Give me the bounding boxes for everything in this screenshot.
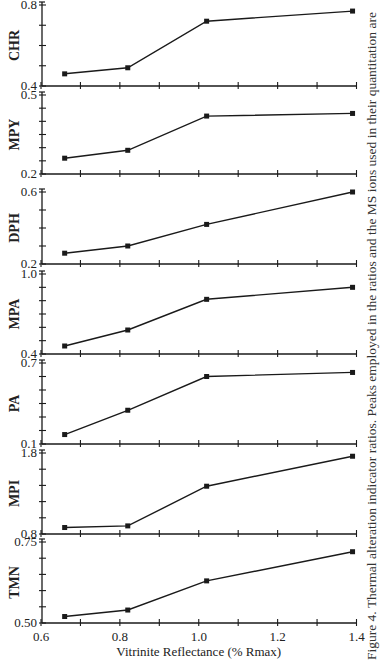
pa-data-point xyxy=(350,370,355,375)
tmn-y-tick-label-min: 0.50 xyxy=(14,615,37,630)
stacked-line-chart: 0.40.8CHR0.20.5MPY0.20.6DPH0.41.0MPA0.10… xyxy=(0,0,383,664)
mpi-data-point xyxy=(350,454,355,459)
mpi-data-point xyxy=(62,525,67,530)
mpa-y-tick-label-max: 1.0 xyxy=(21,266,37,281)
x-tick-label: 0.6 xyxy=(33,629,50,644)
mpa-data-point xyxy=(125,328,130,333)
tmn-data-point xyxy=(62,614,67,619)
chr-y-tick-label-max: 0.8 xyxy=(21,0,37,12)
x-axis-title: Vitrinite Reflectance (% Rmax) xyxy=(116,644,281,659)
x-tick-label: 1.2 xyxy=(270,629,286,644)
x-tick-label: 1.0 xyxy=(191,629,207,644)
dph-data-point xyxy=(204,222,209,227)
mpa-ylabel: MPA xyxy=(7,298,22,330)
chr-data-point xyxy=(204,19,209,24)
mpy-y-tick-label-max: 0.5 xyxy=(21,87,37,102)
mpa-data-point xyxy=(62,344,67,349)
tmn-series-line xyxy=(65,552,353,617)
dph-data-point xyxy=(350,190,355,195)
mpa-data-point xyxy=(350,285,355,290)
pa-data-point xyxy=(204,374,209,379)
chr-data-point xyxy=(350,9,355,14)
x-tick-label: 0.8 xyxy=(112,629,128,644)
mpy-data-point xyxy=(62,156,67,161)
x-tick-label: 1.4 xyxy=(348,629,365,644)
pa-data-point xyxy=(125,408,130,413)
mpy-data-point xyxy=(125,148,130,153)
tmn-y-tick-label-max: 0.75 xyxy=(14,534,37,549)
mpi-data-point xyxy=(204,484,209,489)
chr-data-point xyxy=(125,65,130,70)
mpy-data-point xyxy=(204,114,209,119)
mpy-data-point xyxy=(350,111,355,116)
pa-ylabel: PA xyxy=(7,394,22,413)
tmn-data-point xyxy=(125,608,130,613)
dph-data-point xyxy=(62,251,67,256)
mpi-series-line xyxy=(65,456,353,527)
mpy-ylabel: MPY xyxy=(7,119,22,151)
chr-data-point xyxy=(62,71,67,76)
mpi-data-point xyxy=(125,523,130,528)
mpi-y-tick-label-max: 1.8 xyxy=(21,445,37,460)
mpy-series-line xyxy=(65,113,353,158)
mpi-ylabel: MPI xyxy=(7,480,22,507)
tmn-data-point xyxy=(204,578,209,583)
tmn-ylabel: TMN xyxy=(7,566,22,599)
chr-ylabel: CHR xyxy=(7,29,22,61)
pa-y-tick-label-max: 0.7 xyxy=(21,355,38,370)
mpa-data-point xyxy=(204,297,209,302)
tmn-data-point xyxy=(350,549,355,554)
pa-data-point xyxy=(62,432,67,437)
dph-data-point xyxy=(125,244,130,249)
dph-y-tick-label-max: 0.6 xyxy=(21,184,38,199)
pa-series-line xyxy=(65,372,353,434)
mpa-series-line xyxy=(65,287,353,346)
figure-caption: Figure 4. Thermal alteration indicator r… xyxy=(364,12,379,660)
mpy-y-tick-label-min: 0.2 xyxy=(21,166,37,181)
dph-ylabel: DPH xyxy=(7,213,22,243)
